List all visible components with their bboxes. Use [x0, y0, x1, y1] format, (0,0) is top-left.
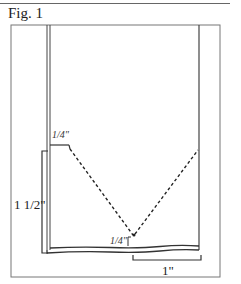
label-top-offset: 1/4" — [52, 129, 70, 140]
dashed-right-arm — [135, 150, 198, 234]
dashed-left-arm — [70, 149, 133, 235]
apex-point — [133, 234, 136, 237]
bottom-offset-bracket — [128, 237, 131, 246]
label-bottom-offset: 1/4" — [110, 235, 128, 246]
floor-line — [47, 250, 199, 253]
bottom-width-bracket — [133, 255, 201, 260]
top-tab-tick — [69, 145, 70, 149]
diagram-canvas: 1/4" 1 1/2" 1/4" 1" — [0, 0, 241, 284]
label-left-height: 1 1/2" — [14, 197, 46, 212]
label-bottom-width: 1" — [162, 263, 174, 278]
